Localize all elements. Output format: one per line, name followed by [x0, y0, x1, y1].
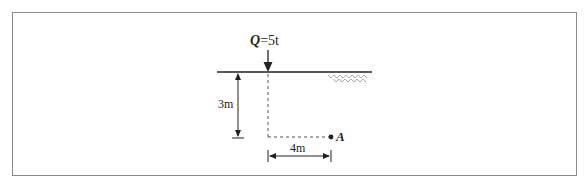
load-label: Q=5t [250, 33, 279, 48]
point-a-marker [329, 135, 334, 140]
soil-stress-diagram: Q=5t 3m A 4m [0, 0, 586, 188]
depth-dimension [232, 74, 244, 138]
point-a-label: A [335, 129, 345, 144]
soil-hatch-icon [328, 75, 367, 82]
depth-label: 3m [218, 97, 234, 111]
load-arrow-icon [264, 50, 273, 72]
horizontal-label: 4m [290, 141, 306, 155]
